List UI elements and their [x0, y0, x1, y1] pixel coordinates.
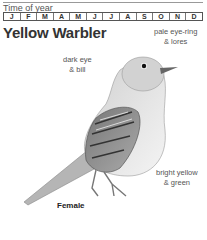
annotation-line: & green	[156, 178, 198, 188]
annotation-line: bright yellow	[156, 168, 198, 178]
sex-label: Female	[57, 201, 85, 210]
annotation-eye-ring: pale eye-ring & lores	[154, 27, 197, 47]
annotation-line: pale eye-ring	[154, 27, 197, 37]
annotation-line: & bill	[63, 65, 92, 75]
annotation-line: dark eye	[63, 55, 92, 65]
annotation-line: & lores	[154, 37, 197, 47]
annotation-color: bright yellow & green	[156, 168, 198, 188]
annotation-eye-bill: dark eye & bill	[63, 55, 92, 75]
